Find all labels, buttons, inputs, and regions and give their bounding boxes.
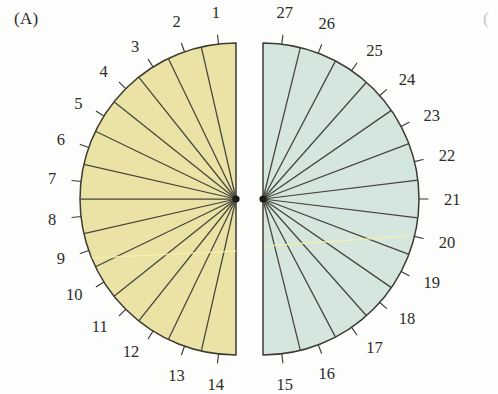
segment-tick-22 (414, 160, 423, 162)
segment-tick-24 (380, 90, 387, 96)
right-semicircle-group (259, 43, 419, 355)
segment-label-7: 7 (48, 169, 56, 188)
segment-tick-9 (80, 251, 88, 254)
segment-tick-5 (96, 111, 104, 116)
segment-label-9: 9 (57, 249, 65, 268)
segment-tick-7 (72, 181, 81, 182)
segment-label-5: 5 (74, 94, 82, 113)
segment-label-24: 24 (399, 70, 416, 89)
segment-tick-12 (148, 331, 153, 339)
segment-tick-1 (218, 35, 219, 44)
segment-label-15: 15 (276, 375, 293, 394)
segment-label-20: 20 (439, 233, 456, 252)
segment-label-23: 23 (423, 106, 440, 125)
segment-tick-6 (80, 145, 88, 148)
segment-label-21: 21 (444, 190, 461, 209)
segment-label-14: 14 (208, 375, 225, 394)
segment-label-6: 6 (57, 130, 65, 149)
panel-label-b: ( (483, 9, 489, 29)
segment-tick-18 (380, 302, 387, 308)
segment-label-12: 12 (123, 342, 140, 361)
segment-label-3: 3 (131, 37, 139, 56)
segment-label-10: 10 (66, 285, 83, 304)
segment-tick-25 (352, 63, 357, 70)
right-hub (259, 195, 266, 202)
segment-tick-15 (282, 354, 283, 363)
segment-tick-26 (318, 45, 321, 53)
segment-label-8: 8 (48, 210, 56, 229)
segment-tick-16 (318, 345, 321, 353)
segment-tick-3 (148, 59, 153, 67)
segment-label-13: 13 (168, 366, 185, 385)
segment-tick-11 (119, 309, 125, 315)
segment-tick-13 (182, 346, 185, 354)
split-pie-diagram: 1234567891011121314272625242322212019181… (0, 0, 498, 394)
segment-tick-20 (414, 236, 423, 238)
segment-label-1: 1 (212, 3, 220, 22)
segment-tick-14 (218, 354, 219, 363)
segment-label-4: 4 (99, 62, 107, 81)
segment-label-11: 11 (92, 317, 108, 336)
segment-label-27: 27 (276, 3, 293, 22)
segment-label-2: 2 (172, 12, 180, 31)
segment-label-26: 26 (319, 14, 336, 33)
segment-tick-19 (401, 272, 409, 276)
segment-tick-23 (401, 122, 409, 126)
segment-label-25: 25 (366, 41, 383, 60)
segment-label-17: 17 (366, 338, 383, 357)
segment-label-16: 16 (319, 364, 336, 383)
segment-tick-17 (352, 327, 357, 334)
left-semicircle-group (80, 43, 240, 355)
segment-label-19: 19 (423, 273, 440, 292)
left-hub (232, 195, 239, 202)
segment-label-18: 18 (399, 309, 416, 328)
segment-label-22: 22 (439, 146, 456, 165)
right-semicircle-body (263, 43, 419, 355)
segment-tick-8 (72, 216, 81, 217)
segment-tick-27 (282, 35, 283, 44)
panel-label-a: (A) (14, 9, 39, 29)
figure-root: 1234567891011121314272625242322212019181… (0, 0, 498, 394)
segment-tick-10 (96, 282, 104, 287)
segment-tick-4 (119, 82, 125, 88)
segment-tick-2 (182, 43, 185, 51)
